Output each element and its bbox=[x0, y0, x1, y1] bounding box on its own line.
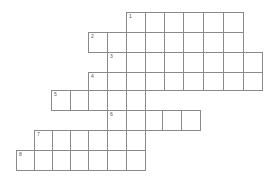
crossword-cell[interactable] bbox=[70, 150, 89, 171]
crossword-cell[interactable]: 2 bbox=[88, 32, 108, 53]
crossword-cell[interactable] bbox=[70, 90, 89, 111]
crossword-cell[interactable] bbox=[164, 12, 184, 33]
crossword-cell[interactable] bbox=[107, 150, 127, 171]
clue-number: 3 bbox=[110, 54, 113, 59]
crossword-cell[interactable]: 1 bbox=[126, 12, 146, 33]
clue-number: 5 bbox=[54, 92, 57, 97]
crossword-cell[interactable] bbox=[181, 110, 201, 131]
crossword-cell[interactable] bbox=[223, 52, 244, 73]
crossword-cell[interactable] bbox=[107, 32, 127, 53]
crossword-cell[interactable] bbox=[162, 110, 182, 131]
crossword-cell[interactable] bbox=[183, 12, 204, 33]
crossword-cell[interactable] bbox=[107, 90, 127, 111]
crossword-cell[interactable] bbox=[145, 110, 163, 131]
crossword-cell[interactable] bbox=[145, 12, 165, 33]
crossword-cell[interactable] bbox=[107, 130, 127, 151]
crossword-cell[interactable] bbox=[145, 32, 165, 53]
crossword-cell[interactable] bbox=[145, 72, 165, 91]
crossword-cell[interactable] bbox=[164, 52, 184, 73]
crossword-cell[interactable] bbox=[70, 130, 89, 151]
crossword-cell[interactable] bbox=[34, 150, 53, 171]
crossword-cell[interactable] bbox=[243, 72, 263, 91]
crossword-cell[interactable] bbox=[107, 72, 127, 91]
crossword-cell[interactable] bbox=[223, 12, 244, 33]
crossword-cell[interactable] bbox=[203, 12, 224, 33]
crossword-cell[interactable] bbox=[164, 32, 184, 53]
clue-number: 4 bbox=[91, 74, 94, 79]
clue-number: 1 bbox=[129, 14, 132, 19]
crossword-cell[interactable] bbox=[126, 150, 146, 171]
clue-number: 8 bbox=[19, 152, 22, 157]
crossword-cell[interactable]: 6 bbox=[107, 110, 127, 131]
crossword-cell[interactable] bbox=[88, 90, 108, 111]
clue-number: 2 bbox=[91, 34, 94, 39]
crossword-cell[interactable]: 3 bbox=[107, 52, 127, 73]
crossword-cell[interactable] bbox=[52, 150, 71, 171]
crossword-cell[interactable] bbox=[126, 90, 146, 111]
crossword-cell[interactable] bbox=[203, 72, 224, 91]
crossword-cell[interactable]: 4 bbox=[88, 72, 108, 91]
crossword-cell[interactable] bbox=[164, 72, 184, 91]
crossword-cell[interactable] bbox=[145, 52, 165, 73]
crossword-cell[interactable] bbox=[203, 52, 224, 73]
crossword-cell[interactable] bbox=[203, 32, 224, 53]
crossword-cell[interactable] bbox=[88, 150, 108, 171]
clue-number: 7 bbox=[37, 132, 40, 137]
crossword-cell[interactable]: 7 bbox=[34, 130, 53, 151]
crossword-cell[interactable]: 5 bbox=[51, 90, 71, 111]
crossword-cell[interactable] bbox=[183, 52, 204, 73]
crossword-cell[interactable] bbox=[223, 32, 244, 53]
crossword-cell[interactable] bbox=[223, 72, 244, 91]
crossword-cell[interactable] bbox=[88, 130, 108, 151]
crossword-cell[interactable] bbox=[126, 32, 146, 53]
clue-number: 6 bbox=[110, 112, 113, 117]
crossword-cell[interactable] bbox=[243, 52, 263, 73]
crossword-cell[interactable] bbox=[52, 130, 71, 151]
crossword-cell[interactable] bbox=[183, 72, 204, 91]
crossword-cell[interactable] bbox=[126, 110, 146, 131]
crossword-cell[interactable] bbox=[126, 130, 146, 151]
crossword-cell[interactable] bbox=[126, 52, 146, 73]
crossword-cell[interactable]: 8 bbox=[16, 150, 35, 171]
crossword-cell[interactable] bbox=[183, 32, 204, 53]
crossword-cell[interactable] bbox=[126, 72, 146, 91]
crossword-grid: 12345678 bbox=[0, 0, 275, 177]
